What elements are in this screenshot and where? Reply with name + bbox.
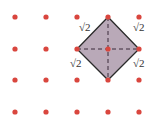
grid-dot <box>105 77 110 82</box>
grid-dot <box>74 46 79 51</box>
grid-dot <box>136 77 141 82</box>
grid-dot <box>12 77 17 82</box>
grid-dot <box>136 14 141 19</box>
dot-grid-diagram: √2 √2 √2 √2 <box>0 0 156 121</box>
grid-dot <box>136 46 141 51</box>
grid-dot <box>136 109 141 114</box>
grid-dot <box>43 46 48 51</box>
grid-dot <box>12 46 17 51</box>
side-label-bottom-left: √2 <box>70 58 82 69</box>
grid-dot <box>74 77 79 82</box>
side-label-bottom-right: √2 <box>133 58 145 69</box>
grid-dot <box>43 14 48 19</box>
grid-dot <box>12 14 17 19</box>
grid-dot <box>105 46 110 51</box>
grid-dot <box>105 109 110 114</box>
grid-dot <box>43 109 48 114</box>
side-label-top-left: √2 <box>79 22 91 33</box>
side-label-top-right: √2 <box>133 22 145 33</box>
grid-dot <box>74 109 79 114</box>
grid-dot <box>43 77 48 82</box>
grid-dot <box>12 109 17 114</box>
grid-dot <box>74 14 79 19</box>
grid-dot <box>105 14 110 19</box>
